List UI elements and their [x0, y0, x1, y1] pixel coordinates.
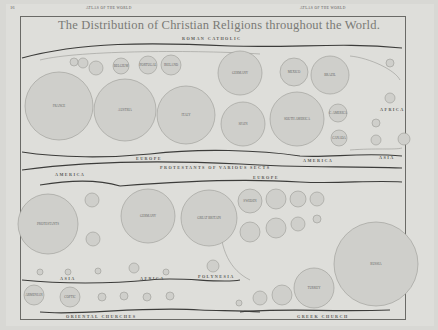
circle-roman_catholic-19	[371, 135, 381, 145]
circle-label: FRANCE	[53, 104, 66, 108]
region-p-africa: AFRICA	[140, 276, 165, 281]
section-protestants: PROTESTANTS OF VARIOUS SECTS	[160, 165, 270, 170]
region-rc-europe: EUROPE	[136, 156, 162, 161]
circle-label: BRAZIL	[324, 73, 336, 77]
section-oriental-churches: ORIENTAL CHURCHES	[66, 314, 136, 319]
region-p-polynesia: POLYNESIA	[198, 274, 235, 279]
circle-label: C. AMERICA	[329, 111, 347, 115]
region-rc-america: AMERICA	[303, 158, 333, 163]
circle-protestants-7	[290, 191, 306, 207]
circle-label: MEXICO	[288, 70, 301, 74]
circle-label: SPAIN	[239, 122, 248, 126]
circle-protestants-15	[95, 268, 101, 274]
region-rc-asia: ASIA	[379, 155, 395, 160]
circle-label: IRELAND	[164, 63, 178, 67]
atlas-page: 16 ATLAS OF THE WORLD ATLAS OF THE WORLD…	[0, 0, 438, 330]
circle-protestants-18	[207, 260, 219, 272]
circle-roman_catholic-switz-	[89, 61, 103, 75]
circle-protestants-3	[85, 193, 99, 207]
region-p-america: AMERICA	[55, 172, 85, 177]
circle-protestants-11	[291, 217, 305, 231]
circle-label: PORTUGAL	[140, 63, 157, 67]
circle-greek-4	[236, 300, 242, 306]
circle-label: GREAT BRITAIN	[197, 216, 221, 220]
circle-label: AUSTRIA	[118, 108, 132, 112]
circle-greek-2	[272, 285, 292, 305]
circle-label: GERMANY	[140, 214, 156, 218]
population-circles	[18, 51, 418, 308]
circle-roman_catholic-16	[386, 59, 394, 67]
circle-protestants-6	[266, 189, 286, 209]
circle-label: COPTIC	[64, 295, 75, 299]
circle-protestants-8	[310, 192, 324, 206]
circle-greek-3	[253, 291, 267, 305]
circle-roman_catholic-20	[398, 133, 410, 145]
circle-roman_catholic-18	[372, 119, 380, 127]
section-greek-church: GREEK CHURCH	[297, 314, 349, 319]
circle-protestants-12	[313, 215, 321, 223]
circle-label: PROTESTANTS	[37, 222, 59, 226]
circle-roman_catholic-12	[78, 58, 88, 68]
circle-oriental-2	[98, 293, 106, 301]
circle-oriental-5	[166, 292, 174, 300]
circle-roman_catholic-17	[385, 93, 395, 103]
circle-label: BELGIUM	[114, 64, 129, 68]
circle-protestants-16	[129, 263, 139, 273]
circle-protestants-13	[37, 269, 43, 275]
circle-protestants-10	[266, 218, 286, 238]
circle-oriental-4	[143, 293, 151, 301]
circle-label: ARMENIAN	[25, 293, 42, 297]
circle-protestants-9	[240, 222, 260, 242]
section-roman-catholic: ROMAN CATHOLIC	[182, 36, 241, 41]
circle-label: RUSSIA	[370, 262, 381, 266]
circle-roman_catholic-13	[70, 58, 78, 66]
region-rc-africa: AFRICA	[380, 107, 405, 112]
circle-protestants-4	[86, 232, 100, 246]
circle-oriental-3	[120, 292, 128, 300]
circle-protestants-17	[163, 269, 169, 275]
circle-label: SOUTH AMERICA	[284, 117, 310, 121]
circle-label: CANADA	[332, 136, 346, 140]
circle-label: GERMANY	[232, 71, 248, 75]
circle-label: TURKEY	[308, 286, 321, 290]
circle-protestants-14	[65, 269, 71, 275]
region-p-asia: ASIA	[60, 276, 76, 281]
circle-label: ITALY	[182, 113, 191, 117]
circle-label: SWEDEN	[243, 199, 256, 203]
region-p-europe: EUROPE	[253, 175, 279, 180]
